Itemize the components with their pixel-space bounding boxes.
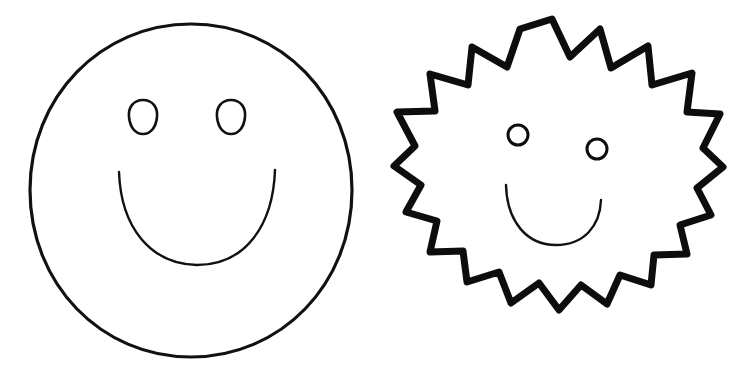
spiky-smiley-face	[0, 0, 745, 383]
spiky-face-mouth	[506, 185, 601, 245]
spiky-face-right-eye	[587, 139, 607, 159]
drawing-canvas	[0, 0, 745, 383]
spiky-face-left-eye	[508, 125, 528, 145]
spiky-face-outline	[394, 19, 723, 310]
